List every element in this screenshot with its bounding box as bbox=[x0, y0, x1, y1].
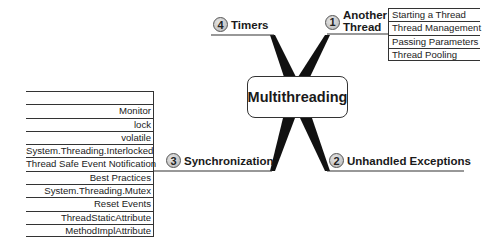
topic-label-line-1: Another bbox=[343, 9, 387, 21]
topic-synchronization[interactable]: 3 Synchronization bbox=[166, 153, 273, 168]
subtopic-item[interactable]: System.Threading.Interlocked bbox=[26, 144, 154, 157]
topic-another-thread[interactable]: 1 Another Thread bbox=[325, 9, 387, 33]
number-badge-icon: 3 bbox=[166, 153, 181, 168]
number-badge-icon: 4 bbox=[213, 17, 228, 32]
subtopic-item[interactable]: Thread Management bbox=[388, 21, 480, 34]
subtopic-item[interactable]: Monitor bbox=[26, 104, 154, 117]
subtopic-item[interactable]: Reset Events bbox=[26, 197, 154, 210]
subtopic-item[interactable]: System.Threading.Mutex bbox=[26, 184, 154, 197]
subtopic-item[interactable]: Best Practices bbox=[26, 171, 154, 184]
topic-label: Unhandled Exceptions bbox=[347, 155, 471, 167]
topic-label: Timers bbox=[231, 19, 269, 31]
topic-unhandled-exceptions[interactable]: 2 Unhandled Exceptions bbox=[329, 153, 471, 168]
number-badge-icon: 2 bbox=[329, 153, 344, 168]
branch-wedge-unhandled-exceptions bbox=[300, 118, 330, 171]
topic-label-line-2: Thread bbox=[343, 21, 387, 33]
subtopic-item[interactable]: MethodImplAttribute bbox=[26, 224, 154, 237]
branch-wedge-timers bbox=[270, 35, 296, 77]
central-topic-label: Multithreading bbox=[248, 89, 348, 105]
subtopic-item[interactable]: Thread Pooling bbox=[388, 48, 480, 61]
branch-wedge-another-thread bbox=[298, 35, 330, 77]
subtopic-list-another-thread: Starting a Thread Thread Management Pass… bbox=[388, 8, 480, 61]
subtopic-item[interactable]: Thread Safe Event Notification bbox=[26, 157, 154, 170]
subtopic-item[interactable]: Passing Parameters bbox=[388, 35, 480, 48]
subtopic-item[interactable]: volatile bbox=[26, 131, 154, 144]
central-topic[interactable]: Multithreading bbox=[247, 76, 348, 118]
subtopic-list-synchronization: Monitor lock volatile System.Threading.I… bbox=[26, 91, 154, 237]
topic-label: Another Thread bbox=[343, 9, 387, 33]
topic-label: Synchronization bbox=[184, 155, 273, 167]
subtopic-item[interactable]: ThreadStaticAttribute bbox=[26, 211, 154, 224]
subtopic-item[interactable] bbox=[26, 91, 154, 104]
topic-timers[interactable]: 4 Timers bbox=[213, 17, 269, 32]
subtopic-item[interactable]: lock bbox=[26, 118, 154, 131]
number-badge-icon: 1 bbox=[325, 15, 340, 30]
branch-wedge-synchronization bbox=[270, 118, 295, 171]
subtopic-item[interactable]: Starting a Thread bbox=[388, 8, 480, 21]
